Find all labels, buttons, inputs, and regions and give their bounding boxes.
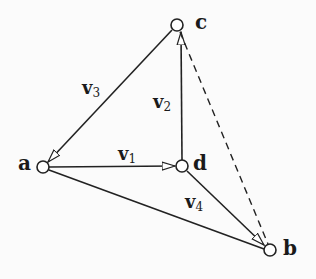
node-label-a: a [18, 153, 31, 173]
edge-a-b [49, 170, 264, 249]
node-d [176, 160, 188, 172]
node-b [264, 244, 276, 256]
graph-diagram: a b c d v1 v2 v3 v4 [0, 0, 316, 279]
node-label-c: c [195, 12, 207, 32]
edge-label-v1: v1 [118, 145, 136, 165]
node-label-b: b [283, 238, 297, 258]
edge-label-v2: v2 [153, 93, 171, 113]
edge-v2 [181, 32, 182, 160]
node-label-d: d [193, 153, 207, 173]
graph-edges [0, 0, 316, 279]
edge-label-v3: v3 [82, 79, 100, 99]
node-c [171, 19, 183, 31]
edge-label-v4: v4 [185, 193, 203, 213]
edge-v1 [49, 166, 175, 167]
node-a [37, 161, 49, 173]
